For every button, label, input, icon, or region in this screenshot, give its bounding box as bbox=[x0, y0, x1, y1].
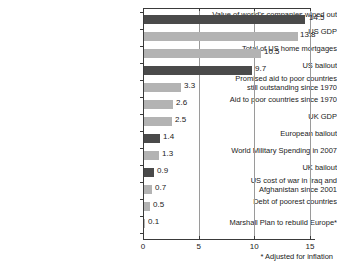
tick-left bbox=[140, 114, 143, 115]
tick-top-15 bbox=[310, 8, 311, 11]
tick-left bbox=[140, 199, 143, 200]
tick-left bbox=[140, 46, 143, 47]
bar-value-label: 0.7 bbox=[155, 183, 166, 192]
bar-value-label: 10.5 bbox=[264, 47, 280, 56]
bar-value-label: 14.5 bbox=[309, 13, 325, 22]
xtick-label-10: 10 bbox=[250, 242, 259, 251]
xtick-label-0: 0 bbox=[141, 242, 145, 251]
bar bbox=[144, 83, 181, 92]
plot-area: 14.5 13.8 10.5 9.7 3.3 2.6 2.5 1 bbox=[143, 8, 310, 240]
bar bbox=[144, 219, 145, 228]
tick-left bbox=[140, 131, 143, 132]
tick-top-0 bbox=[143, 8, 144, 11]
bar-value-label: 13.8 bbox=[300, 30, 316, 39]
gridline-15 bbox=[310, 8, 311, 240]
gridline-10 bbox=[254, 8, 255, 240]
axis-top-line bbox=[143, 8, 310, 9]
axis-bottom-line bbox=[143, 239, 315, 240]
bar bbox=[144, 185, 152, 194]
tick-bottom-10 bbox=[254, 236, 255, 240]
chart-footnote: * Adjusted for inflation bbox=[260, 252, 333, 261]
tick-left bbox=[140, 233, 143, 234]
bar-value-label: 0.9 bbox=[157, 166, 168, 175]
tick-left bbox=[140, 97, 143, 98]
bar-value-label: 3.3 bbox=[184, 81, 195, 90]
tick-left bbox=[140, 182, 143, 183]
bar-value-label: 1.4 bbox=[163, 132, 174, 141]
xtick-label-5: 5 bbox=[196, 242, 200, 251]
bar bbox=[144, 117, 172, 126]
bar-value-label: 2.5 bbox=[175, 115, 186, 124]
bar bbox=[144, 202, 150, 211]
xtick-label-15: 15 bbox=[306, 242, 315, 251]
tick-left bbox=[140, 29, 143, 30]
tick-top-5 bbox=[199, 8, 200, 11]
tick-bottom-15 bbox=[310, 236, 311, 240]
bar-value-label: 0.5 bbox=[153, 200, 164, 209]
tick-left bbox=[140, 80, 143, 81]
bar-value-label: 2.6 bbox=[176, 98, 187, 107]
bar-value-label: 0.1 bbox=[148, 217, 159, 226]
bar-value-label: 1.3 bbox=[162, 149, 173, 158]
gridline-5 bbox=[199, 8, 200, 240]
tick-left bbox=[140, 12, 143, 13]
tick-top-10 bbox=[254, 8, 255, 11]
bar-value-label: 9.7 bbox=[255, 64, 266, 73]
bar bbox=[144, 151, 159, 160]
tick-bottom-0 bbox=[143, 236, 144, 240]
bar bbox=[144, 15, 305, 24]
tick-bottom-5 bbox=[199, 236, 200, 240]
bar-chart: Value of world's companies wiped out US … bbox=[0, 0, 337, 276]
tick-left bbox=[140, 148, 143, 149]
bar bbox=[144, 168, 154, 177]
tick-left bbox=[140, 165, 143, 166]
bar bbox=[144, 32, 298, 41]
tick-left bbox=[140, 216, 143, 217]
tick-left bbox=[140, 63, 143, 64]
bar bbox=[144, 100, 173, 109]
bar bbox=[144, 134, 160, 143]
bar bbox=[144, 66, 252, 75]
bar bbox=[144, 49, 261, 58]
